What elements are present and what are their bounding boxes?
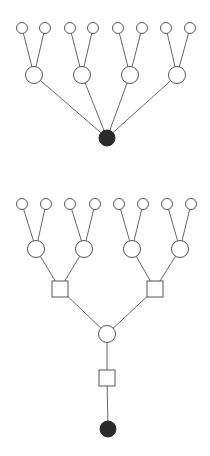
square-node: [147, 281, 163, 297]
circle-node: [161, 23, 172, 34]
bottom-tree-nodes: [17, 199, 197, 438]
circle-node: [26, 67, 43, 84]
circle-node: [17, 23, 28, 34]
circle-node: [185, 23, 196, 34]
circle-node: [40, 23, 51, 34]
filled-root-node: [100, 421, 116, 437]
circle-node: [169, 67, 186, 84]
bottom-tree-edges: [22, 204, 191, 429]
circle-node: [41, 199, 52, 210]
filled-root-node: [99, 130, 115, 146]
circle-node: [138, 199, 149, 210]
circle-node: [28, 241, 45, 258]
bottom-tree-diagram: [17, 199, 197, 438]
circle-node: [186, 199, 197, 210]
tree-edge: [82, 75, 107, 138]
circle-node: [114, 199, 125, 210]
circle-node: [113, 23, 124, 34]
top-tree-diagram: [17, 23, 196, 147]
tree-edge: [107, 75, 130, 138]
square-node: [52, 281, 68, 297]
tree-diagrams-canvas: [0, 0, 210, 456]
circle-node: [65, 199, 76, 210]
circle-node: [65, 23, 76, 34]
circle-node: [99, 326, 116, 343]
tree-edge: [34, 75, 107, 138]
circle-node: [17, 199, 28, 210]
circle-node: [74, 67, 91, 84]
circle-node: [137, 23, 148, 34]
circle-node: [88, 23, 99, 34]
tree-edge: [107, 75, 177, 138]
circle-node: [172, 241, 189, 258]
circle-node: [124, 241, 141, 258]
circle-node: [90, 199, 101, 210]
circle-node: [122, 67, 139, 84]
circle-node: [76, 241, 93, 258]
square-node: [99, 370, 115, 386]
circle-node: [162, 199, 173, 210]
top-tree-edges: [22, 28, 190, 138]
